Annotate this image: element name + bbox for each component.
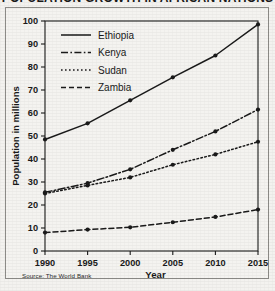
chart-frame: 0102030405060708090100199019952000200520…: [5, 7, 269, 279]
chart-title-strip: POPULATION GROWTH IN AFRICAN NATIONS: [0, 0, 275, 6]
series-line-ethiopia: [45, 24, 258, 139]
y-tick-label-50: 50: [28, 131, 38, 141]
data-point-ethiopia-2000: [128, 98, 132, 102]
y-tick-label-0: 0: [33, 246, 38, 256]
y-tick-label-30: 30: [28, 177, 38, 187]
figure-container: POPULATION GROWTH IN AFRICAN NATIONS 010…: [0, 0, 275, 291]
data-point-zambia-1990: [43, 231, 47, 235]
data-point-ethiopia-1990: [43, 137, 47, 141]
data-point-ethiopia-2010: [213, 53, 217, 57]
data-point-kenya-2010: [213, 129, 217, 133]
x-axis-label: Year: [145, 269, 166, 280]
x-tick-label-2010: 2010: [205, 258, 225, 268]
data-point-zambia-2000: [128, 225, 132, 229]
data-point-kenya-2015: [256, 107, 260, 111]
y-tick-label-40: 40: [28, 154, 38, 164]
data-point-kenya-2000: [128, 167, 132, 171]
data-point-sudan-2005: [171, 163, 175, 167]
data-point-ethiopia-2005: [171, 75, 175, 79]
data-point-kenya-2005: [171, 148, 175, 152]
data-point-zambia-1995: [86, 228, 90, 232]
chart-title: POPULATION GROWTH IN AFRICAN NATIONS: [2, 0, 274, 5]
legend-label-ethiopia: Ethiopia: [98, 30, 135, 41]
y-tick-label-20: 20: [28, 200, 38, 210]
x-tick-label-2015: 2015: [248, 258, 268, 268]
y-tick-label-100: 100: [23, 16, 38, 26]
y-tick-label-70: 70: [28, 85, 38, 95]
data-point-sudan-2015: [256, 140, 260, 144]
data-point-sudan-1990: [43, 191, 47, 195]
data-point-zambia-2005: [171, 220, 175, 224]
plot-area-border: [45, 21, 258, 251]
y-tick-label-80: 80: [28, 62, 38, 72]
data-point-ethiopia-1995: [86, 121, 90, 125]
data-point-zambia-2015: [256, 208, 260, 212]
source-note: Source: The World Bank: [22, 272, 91, 279]
data-point-sudan-2010: [213, 152, 217, 156]
x-tick-label-1995: 1995: [77, 258, 97, 268]
x-tick-label-1990: 1990: [35, 258, 55, 268]
y-tick-label-90: 90: [28, 39, 38, 49]
data-point-zambia-2010: [213, 215, 217, 219]
y-axis-label: Population in millions: [10, 86, 21, 186]
legend-label-sudan: Sudan: [98, 65, 127, 76]
series-line-zambia: [45, 210, 258, 233]
legend-label-kenya: Kenya: [98, 47, 127, 58]
legend-label-zambia: Zambia: [98, 82, 132, 93]
y-tick-label-10: 10: [28, 223, 38, 233]
x-tick-label-2000: 2000: [120, 258, 140, 268]
data-point-sudan-1995: [86, 183, 90, 187]
data-point-sudan-2000: [128, 175, 132, 179]
x-tick-label-2005: 2005: [163, 258, 183, 268]
data-point-ethiopia-2015: [256, 22, 260, 26]
y-tick-label-60: 60: [28, 108, 38, 118]
line-chart-plot: 0102030405060708090100199019952000200520…: [6, 8, 270, 280]
